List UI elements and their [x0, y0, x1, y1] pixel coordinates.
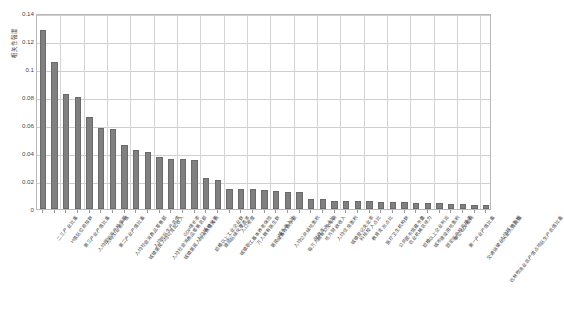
bar [355, 201, 361, 209]
x-tickmark [404, 210, 405, 213]
bar [215, 180, 221, 209]
x-tickmark [462, 210, 463, 213]
bar [296, 192, 302, 209]
x-tickmark [427, 210, 428, 213]
x-tickmark [439, 210, 440, 213]
bar [378, 202, 384, 209]
x-tickmark [474, 210, 475, 213]
x-tickmark [229, 210, 230, 213]
x-tickmark [240, 210, 241, 213]
bar [133, 150, 139, 209]
bar [425, 203, 431, 209]
y-tick-label: 0 [31, 207, 34, 213]
bar [156, 157, 162, 209]
x-tickmark [275, 210, 276, 213]
x-tickmark [77, 210, 78, 213]
bar [110, 129, 116, 209]
y-tick-label: 0.04 [22, 151, 34, 157]
x-tickmark [147, 210, 148, 213]
y-tick-label: 0.08 [22, 95, 34, 101]
bar [285, 192, 291, 209]
bar [401, 202, 407, 209]
bar [366, 201, 372, 209]
bar [203, 178, 209, 209]
bar [460, 204, 466, 209]
y-tick-label: 0.1 [25, 67, 34, 73]
y-tick-label: 0.02 [22, 179, 34, 185]
x-tickmark [392, 210, 393, 213]
x-tickmark [299, 210, 300, 213]
x-tickmark [415, 210, 416, 213]
x-tickmark [485, 210, 486, 213]
bar [343, 201, 349, 209]
x-tickmark [89, 210, 90, 213]
bar [308, 199, 314, 210]
bar [63, 94, 69, 209]
x-tickmark [380, 210, 381, 213]
bar [483, 205, 489, 209]
bar [121, 145, 127, 209]
x-tickmark [194, 210, 195, 213]
y-axis-tick-labels: 00.020.040.060.080.10.120.14 [0, 0, 34, 230]
x-tickmark [65, 210, 66, 213]
x-tickmark [159, 210, 160, 213]
bar [250, 189, 256, 209]
x-tick-label: 人均地区生产总值 [153, 215, 181, 249]
x-tickmark [100, 210, 101, 213]
x-tickmark [369, 210, 370, 213]
x-tickmark [182, 210, 183, 213]
bar [40, 30, 46, 209]
x-tickmark [135, 210, 136, 213]
x-tickmark [287, 210, 288, 213]
bar [145, 152, 151, 209]
bar [86, 117, 92, 209]
bar [191, 160, 197, 209]
bar [390, 202, 396, 209]
x-tickmark [345, 210, 346, 213]
bar [273, 191, 279, 209]
x-tickmark [252, 210, 253, 213]
bar-series [37, 15, 490, 209]
bar [180, 159, 186, 209]
bar [448, 204, 454, 209]
y-tick-label: 0.12 [22, 39, 34, 45]
x-tickmark [322, 210, 323, 213]
x-tickmark [334, 210, 335, 213]
x-tickmark [264, 210, 265, 213]
x-tickmark [357, 210, 358, 213]
y-tick-label: 0.14 [22, 11, 34, 17]
bar [98, 128, 104, 209]
x-tick-label: 人均耕地面积 [499, 215, 521, 241]
bar [436, 203, 442, 209]
x-tick-label: 规模以上工业企业数 [213, 215, 244, 253]
bar [331, 201, 337, 209]
bar [261, 190, 267, 209]
x-tickmark [42, 210, 43, 213]
bar [238, 189, 244, 209]
x-tickmark [54, 210, 55, 213]
x-tickmark [124, 210, 125, 213]
bar [413, 203, 419, 209]
x-tickmark [450, 210, 451, 213]
bar [51, 62, 57, 209]
bar [168, 159, 174, 209]
plot-area [36, 14, 491, 210]
bar [226, 189, 232, 209]
y-tick-label: 0.06 [22, 123, 34, 129]
bar [471, 205, 477, 209]
bar [75, 97, 81, 209]
x-tickmark [170, 210, 171, 213]
x-tickmark [217, 210, 218, 213]
x-tickmark [112, 210, 113, 213]
bar [320, 199, 326, 209]
x-tickmark [310, 210, 311, 213]
x-tickmark [205, 210, 206, 213]
